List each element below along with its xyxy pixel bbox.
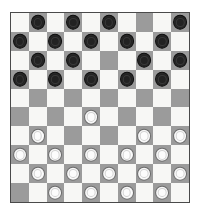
board-square-r5c8[interactable] [153, 107, 171, 126]
board-square-r6c0[interactable] [11, 126, 29, 145]
board-square-r3c2[interactable] [47, 70, 65, 89]
black-piece[interactable] [66, 15, 80, 30]
board-square-r4c8[interactable] [153, 89, 171, 108]
board-square-r6c3[interactable] [64, 126, 82, 145]
board-square-r0c6[interactable] [118, 13, 136, 32]
board-square-r8c6[interactable] [118, 164, 136, 183]
board-square-r6c7[interactable] [136, 126, 154, 145]
black-piece[interactable] [31, 15, 45, 30]
board-square-r1c7[interactable] [136, 32, 154, 51]
white-piece[interactable] [13, 147, 27, 162]
board-square-r4c6[interactable] [118, 89, 136, 108]
board-square-r8c7[interactable] [136, 164, 154, 183]
board-square-r4c1[interactable] [29, 89, 47, 108]
board-square-r6c8[interactable] [153, 126, 171, 145]
board-square-r1c8[interactable] [153, 32, 171, 51]
board-square-r3c9[interactable] [171, 70, 189, 89]
board-square-r9c8[interactable] [153, 183, 171, 202]
black-piece[interactable] [155, 72, 169, 87]
board-square-r7c9[interactable] [171, 145, 189, 164]
board-square-r8c5[interactable] [100, 164, 118, 183]
black-piece[interactable] [13, 34, 27, 49]
white-piece[interactable] [84, 110, 98, 125]
black-piece[interactable] [49, 34, 63, 49]
board-square-r8c9[interactable] [171, 164, 189, 183]
board-square-r6c9[interactable] [171, 126, 189, 145]
board-square-r1c2[interactable] [47, 32, 65, 51]
board-square-r5c1[interactable] [29, 107, 47, 126]
board-square-r1c5[interactable] [100, 32, 118, 51]
board-square-r5c0[interactable] [11, 107, 29, 126]
white-piece[interactable] [49, 147, 63, 162]
board-square-r3c3[interactable] [64, 70, 82, 89]
white-piece[interactable] [138, 166, 152, 181]
board-square-r9c4[interactable] [82, 183, 100, 202]
board-square-r7c2[interactable] [47, 145, 65, 164]
white-piece[interactable] [120, 185, 134, 200]
board-square-r4c3[interactable] [64, 89, 82, 108]
white-piece[interactable] [120, 147, 134, 162]
board-square-r6c2[interactable] [47, 126, 65, 145]
white-piece[interactable] [173, 166, 187, 181]
board-square-r7c1[interactable] [29, 145, 47, 164]
board-square-r9c2[interactable] [47, 183, 65, 202]
board-square-r6c4[interactable] [82, 126, 100, 145]
board-square-r7c7[interactable] [136, 145, 154, 164]
board-square-r3c5[interactable] [100, 70, 118, 89]
board-square-r6c1[interactable] [29, 126, 47, 145]
board-square-r1c0[interactable] [11, 32, 29, 51]
board-square-r9c5[interactable] [100, 183, 118, 202]
board-square-r3c4[interactable] [82, 70, 100, 89]
board-square-r0c8[interactable] [153, 13, 171, 32]
board-square-r2c8[interactable] [153, 51, 171, 70]
board-square-r8c4[interactable] [82, 164, 100, 183]
white-piece[interactable] [49, 185, 63, 200]
black-piece[interactable] [66, 53, 80, 68]
board-square-r6c5[interactable] [100, 126, 118, 145]
white-piece[interactable] [31, 166, 45, 181]
board-square-r2c9[interactable] [171, 51, 189, 70]
black-piece[interactable] [173, 53, 187, 68]
board-square-r4c0[interactable] [11, 89, 29, 108]
board-square-r5c2[interactable] [47, 107, 65, 126]
black-piece[interactable] [84, 34, 98, 49]
board-square-r3c1[interactable] [29, 70, 47, 89]
white-piece[interactable] [155, 147, 169, 162]
board-square-r9c3[interactable] [64, 183, 82, 202]
board-square-r2c0[interactable] [11, 51, 29, 70]
board-square-r8c0[interactable] [11, 164, 29, 183]
board-square-r2c2[interactable] [47, 51, 65, 70]
board-square-r2c3[interactable] [64, 51, 82, 70]
white-piece[interactable] [31, 128, 45, 143]
black-piece[interactable] [138, 53, 152, 68]
board-square-r0c7[interactable] [136, 13, 154, 32]
board-square-r5c6[interactable] [118, 107, 136, 126]
board-square-r4c4[interactable] [82, 89, 100, 108]
board-square-r1c4[interactable] [82, 32, 100, 51]
board-square-r7c0[interactable] [11, 145, 29, 164]
board-square-r0c3[interactable] [64, 13, 82, 32]
board-square-r5c4[interactable] [82, 107, 100, 126]
board-square-r8c8[interactable] [153, 164, 171, 183]
board-square-r1c6[interactable] [118, 32, 136, 51]
board-square-r5c5[interactable] [100, 107, 118, 126]
board-square-r7c6[interactable] [118, 145, 136, 164]
board-square-r0c9[interactable] [171, 13, 189, 32]
board-square-r4c5[interactable] [100, 89, 118, 108]
board-square-r0c2[interactable] [47, 13, 65, 32]
board-square-r3c8[interactable] [153, 70, 171, 89]
board-square-r8c2[interactable] [47, 164, 65, 183]
board-square-r0c0[interactable] [11, 13, 29, 32]
board-square-r9c1[interactable] [29, 183, 47, 202]
board-square-r6c6[interactable] [118, 126, 136, 145]
black-piece[interactable] [102, 15, 116, 30]
black-piece[interactable] [31, 53, 45, 68]
black-piece[interactable] [120, 34, 134, 49]
board-square-r9c0[interactable] [11, 183, 29, 202]
board-square-r4c9[interactable] [171, 89, 189, 108]
white-piece[interactable] [66, 166, 80, 181]
board-square-r3c0[interactable] [11, 70, 29, 89]
board-square-r1c3[interactable] [64, 32, 82, 51]
board-square-r0c5[interactable] [100, 13, 118, 32]
board-square-r3c6[interactable] [118, 70, 136, 89]
